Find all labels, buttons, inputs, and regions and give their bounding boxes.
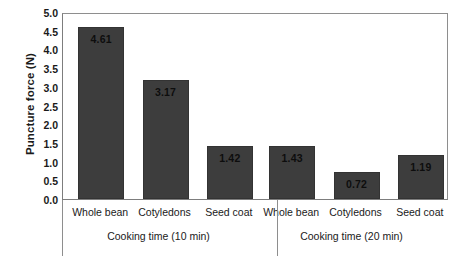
x-axis-category-label: Seed coat xyxy=(388,206,452,218)
x-axis-group-label: Cooking time (20 min) xyxy=(255,230,448,242)
y-axis-tick-label: 3.0 xyxy=(32,83,58,94)
bar: 0.72 xyxy=(334,172,380,199)
y-axis-tick-label: 4.0 xyxy=(32,45,58,56)
y-axis-tick-label: 1.5 xyxy=(32,139,58,150)
bar-value-label: 0.72 xyxy=(335,178,379,190)
bar-value-label: 1.43 xyxy=(270,152,314,164)
bar-value-label: 1.42 xyxy=(208,152,252,164)
plot-area: 4.613.171.421.430.721.19 xyxy=(62,13,448,200)
group-divider xyxy=(277,200,278,256)
y-axis-tick-label: 0.5 xyxy=(32,176,58,187)
x-axis-category-label: Cotyledons xyxy=(132,206,196,218)
x-axis-category-label: Whole bean xyxy=(259,206,323,218)
y-axis-tick-label: 1.0 xyxy=(32,157,58,168)
y-axis-tick-label: 4.5 xyxy=(32,26,58,37)
bar-value-label: 4.61 xyxy=(79,33,123,45)
bar: 1.19 xyxy=(398,155,444,200)
bar: 3.17 xyxy=(143,80,189,199)
group-divider xyxy=(62,200,63,256)
x-axis-category-label: Seed coat xyxy=(197,206,261,218)
chart-figure: Puncture force (N) 5.04.54.03.53.02.52.0… xyxy=(0,0,462,260)
y-axis-tick-label: 3.5 xyxy=(32,64,58,75)
x-axis-category-label: Whole bean xyxy=(68,206,132,218)
x-axis-category-label: Cotyledons xyxy=(323,206,387,218)
x-axis-label-band: Whole beanCotyledonsSeed coatCooking tim… xyxy=(0,200,462,260)
x-axis-group-label: Cooking time (10 min) xyxy=(62,230,255,242)
y-axis-tick-label: 2.0 xyxy=(32,120,58,131)
bar: 4.61 xyxy=(78,27,124,199)
y-axis-tick-label: 2.5 xyxy=(32,101,58,112)
bar: 1.42 xyxy=(207,146,253,199)
bar: 1.43 xyxy=(269,146,315,199)
bar-value-label: 3.17 xyxy=(144,86,188,98)
y-axis-tick-label: 5.0 xyxy=(32,8,58,19)
bar-value-label: 1.19 xyxy=(399,161,443,173)
